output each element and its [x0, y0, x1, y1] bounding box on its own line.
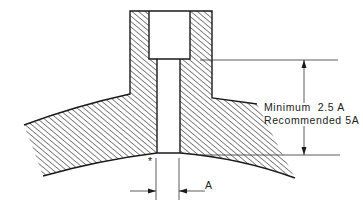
diagram-canvas: * A Minimum 2.5 A Recommended 5A: [0, 0, 363, 213]
bore-label-a: A: [205, 179, 213, 191]
left-section-hatch: [24, 11, 157, 176]
dimension-note-recommended: Recommended 5A: [264, 114, 359, 126]
right-section-hatch: [180, 11, 295, 178]
asterisk-mark: *: [148, 155, 153, 167]
dimension-note-minimum: Minimum 2.5 A: [264, 101, 345, 113]
bore-width-dimension: [130, 158, 205, 200]
